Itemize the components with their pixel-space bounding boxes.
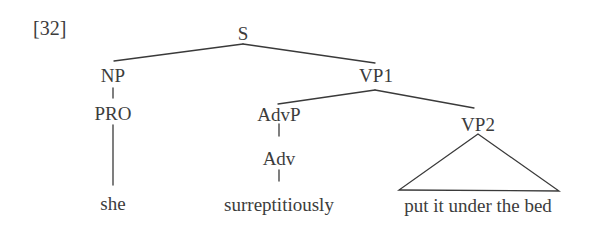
node-vp2: VP2 [461,115,495,134]
node-adv: Adv [263,149,296,168]
terminal-put-it-under-the-bed: put it under the bed [404,196,552,215]
node-pro: PRO [95,104,132,123]
node-vp1: VP1 [359,66,393,85]
branch-s-np [114,44,243,61]
vp2-triangle [399,134,559,191]
node-s: S [238,24,249,43]
terminal-surreptitiously: surreptitiously [224,195,334,214]
terminal-she: she [100,194,125,213]
node-np: NP [101,66,125,85]
branch-vp1-vp2 [375,90,474,108]
branch-s-vp1 [243,44,375,63]
node-advp: AdvP [257,105,300,124]
branch-vp1-advp [278,90,375,104]
